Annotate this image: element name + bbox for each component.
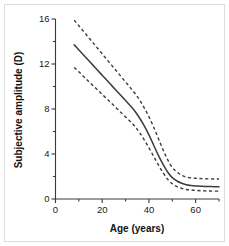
- curve-bound-0: [74, 20, 219, 179]
- axes-group: [56, 19, 220, 199]
- curve-mean-1: [74, 45, 219, 187]
- x-axis-title: Age (years): [110, 223, 164, 234]
- y-tick-label: 0: [44, 193, 49, 204]
- x-tick-label: 0: [53, 204, 58, 215]
- chart-canvas: 04812160204060 Age (years) Subjective am…: [0, 0, 229, 246]
- x-tick-label: 60: [190, 204, 201, 215]
- tick-labels-group: 04812160204060: [39, 13, 201, 215]
- y-tick-label: 12: [39, 58, 50, 69]
- x-tick-label: 40: [144, 204, 155, 215]
- y-tick-label: 4: [44, 148, 49, 159]
- y-axis-title: Subjective amplitude (D): [13, 52, 24, 169]
- y-tick-label: 16: [39, 13, 50, 24]
- figure-container: 04812160204060 Age (years) Subjective am…: [0, 0, 229, 246]
- curves-group: [74, 20, 219, 191]
- y-tick-label: 8: [44, 103, 49, 114]
- x-tick-label: 20: [97, 204, 108, 215]
